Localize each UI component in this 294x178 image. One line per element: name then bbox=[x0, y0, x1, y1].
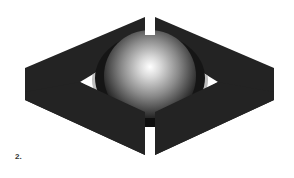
bottom-slit bbox=[145, 127, 155, 157]
figure-label: 2. bbox=[15, 152, 22, 161]
top-slit bbox=[145, 15, 155, 35]
eye-diamond-logo bbox=[0, 0, 294, 178]
